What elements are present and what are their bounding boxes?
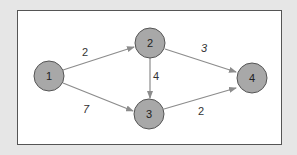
edge-label-1-2: 2 — [82, 46, 88, 58]
edge-label-1-3: 7 — [83, 103, 90, 115]
node-label-2: 2 — [147, 37, 153, 49]
node-3: 3 — [134, 99, 164, 129]
node-label-1: 1 — [46, 70, 52, 82]
edge-1-2 — [63, 47, 134, 70]
edge-label-3-4: 2 — [198, 105, 204, 117]
node-2: 2 — [135, 28, 165, 58]
node-label-4: 4 — [249, 72, 255, 84]
weighted-directed-graph: 2 7 4 3 2 1 2 3 4 — [0, 0, 297, 155]
edge-label-2-3: 4 — [153, 70, 159, 82]
edge-label-2-4: 3 — [201, 42, 208, 54]
node-label-3: 3 — [146, 108, 152, 120]
edge-1-3 — [63, 83, 133, 111]
node-4: 4 — [237, 63, 267, 93]
node-1: 1 — [34, 61, 64, 91]
